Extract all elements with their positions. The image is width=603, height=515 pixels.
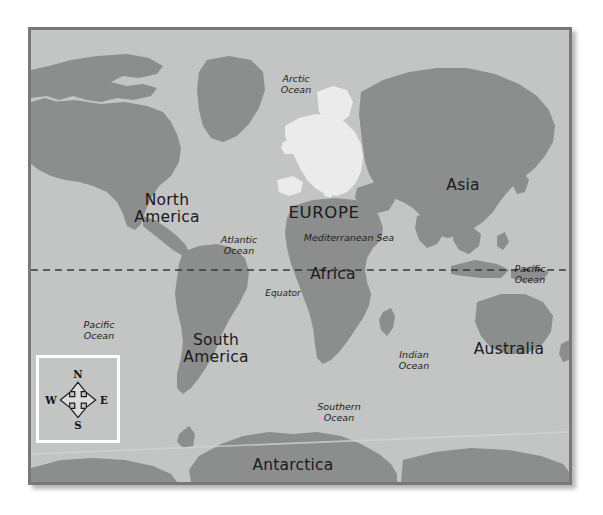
world-map: North America South America EUROPE Afric… (28, 27, 572, 485)
compass-south-label: S (74, 419, 81, 431)
compass-north-label: N (73, 368, 82, 380)
compass-west-label: W (44, 394, 57, 406)
compass-arrow-icon (60, 382, 95, 417)
compass-east-label: E (100, 394, 108, 406)
compass-rose: N S E W (36, 355, 120, 443)
